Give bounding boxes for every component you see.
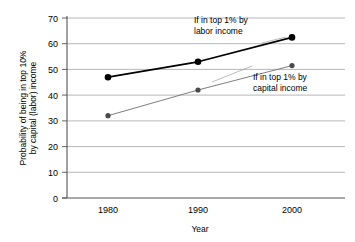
labor-annotation-line2: labor income — [194, 26, 243, 36]
y-axis-title-line1: Probability of being in top 10% — [18, 50, 28, 165]
line-chart: 70 60 50 40 30 20 10 0 1980 1990 2000 Ye… — [0, 0, 355, 242]
x-tick-label-1990: 1990 — [188, 205, 208, 215]
y-axis-title: Probability of being in top 10% by capit… — [18, 50, 38, 165]
chart-container: 70 60 50 40 30 20 10 0 1980 1990 2000 Ye… — [0, 0, 355, 242]
y-tick-label-50: 50 — [48, 65, 58, 75]
y-axis-title-line2: by capital (labor) income — [28, 61, 38, 154]
labor-annotation-line1: If in top 1% by — [194, 15, 249, 25]
x-axis-title: Year — [191, 224, 208, 234]
y-tick-label-20: 20 — [48, 142, 58, 152]
y-tick-label-70: 70 — [48, 14, 58, 24]
capital-point-1990 — [195, 87, 200, 92]
x-tick-label-1980: 1980 — [98, 205, 118, 215]
y-tick-label-10: 10 — [48, 168, 58, 178]
labor-annotation: If in top 1% by labor income — [194, 15, 249, 36]
capital-point-2000 — [289, 63, 294, 68]
y-tick-label-60: 60 — [48, 39, 58, 49]
labor-point-1980 — [105, 74, 112, 81]
capital-annotation-line1: If in top 1% by — [253, 72, 308, 82]
y-tick-label-30: 30 — [48, 116, 58, 126]
y-tick-label-0: 0 — [53, 194, 58, 204]
capital-point-1980 — [105, 113, 110, 118]
labor-point-2000 — [289, 34, 296, 41]
capital-annotation: If in top 1% by capital income — [253, 72, 308, 93]
labor-point-1990 — [195, 59, 202, 66]
y-tick-label-40: 40 — [48, 91, 58, 101]
capital-annotation-line2: capital income — [253, 83, 308, 93]
x-tick-label-2000: 2000 — [282, 205, 302, 215]
